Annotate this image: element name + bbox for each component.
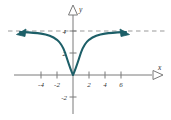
y-axis-label: y — [78, 5, 83, 14]
y-tick-label-4: 4 — [63, 28, 67, 36]
x-tick-label-6: 6 — [119, 81, 123, 89]
curve-left-arrowhead-icon — [17, 29, 27, 37]
graph-canvas: -4 -2 2 4 6 4 2 -2 y x — [0, 0, 171, 120]
x-tick-label-neg4: -4 — [38, 81, 44, 89]
y-axis-arrow-icon — [69, 5, 78, 15]
y-tick-label-neg2: -2 — [61, 94, 67, 102]
function-graph-figure: -4 -2 2 4 6 4 2 -2 y x — [0, 0, 171, 120]
x-tick-label-4: 4 — [103, 81, 107, 89]
curve-right-arrowhead-icon — [120, 29, 130, 37]
x-tick-label-neg2: -2 — [54, 81, 60, 89]
x-tick-label-2: 2 — [87, 81, 91, 89]
x-axis-label: x — [157, 63, 162, 72]
